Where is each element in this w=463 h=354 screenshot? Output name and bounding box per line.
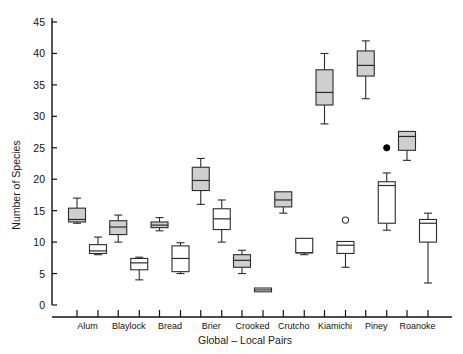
box-local-crutcho xyxy=(296,238,313,254)
box-global-alum xyxy=(69,198,86,223)
box-local-roanoke xyxy=(420,213,437,283)
y-axis: 051015202530354045 xyxy=(33,16,57,311)
box-global-blaylock xyxy=(110,215,127,242)
y-tick-label: 20 xyxy=(33,173,45,185)
outlier-point xyxy=(384,145,390,151)
box-rect xyxy=(234,255,251,268)
box-global-crutcho xyxy=(275,192,292,213)
box-global-crooked xyxy=(234,250,251,273)
box-rect xyxy=(90,245,107,254)
box-global-roanoke xyxy=(399,131,416,160)
box-local-crooked xyxy=(255,288,272,292)
x-tick-label-blaylock: Blaylock xyxy=(112,321,146,331)
box-rect xyxy=(131,258,148,269)
x-tick-label-crutcho: Crutcho xyxy=(278,321,310,331)
box-rect xyxy=(275,192,292,207)
box-rect xyxy=(296,238,313,252)
box-rect xyxy=(110,221,127,235)
x-axis-label: Global – Local Pairs xyxy=(198,334,292,346)
y-tick-label: 25 xyxy=(33,142,45,154)
box-global-piney xyxy=(357,41,374,99)
box-rect xyxy=(316,70,333,105)
box-local-piney xyxy=(378,145,395,230)
y-tick-label: 35 xyxy=(33,79,45,91)
box-rect xyxy=(378,182,395,224)
box-local-kiamichi xyxy=(337,217,354,267)
y-axis-label: Number of Species xyxy=(10,140,22,229)
box-global-kiamichi xyxy=(316,53,333,123)
y-tick-label: 15 xyxy=(33,205,45,217)
x-tick-label-alum: Alum xyxy=(77,321,98,331)
x-tick-label-crooked: Crooked xyxy=(235,321,269,331)
box-series-group xyxy=(69,41,437,292)
box-rect xyxy=(357,51,374,76)
y-tick-label: 10 xyxy=(33,236,45,248)
box-local-bread xyxy=(172,243,189,274)
x-tick-label-piney: Piney xyxy=(365,321,388,331)
x-tick-label-brier: Brier xyxy=(202,321,221,331)
box-plot-chart: Number of Species Global – Local Pairs 0… xyxy=(0,0,463,354)
box-local-alum xyxy=(90,237,107,255)
x-tick-label-kiamichi: Kiamichi xyxy=(318,321,352,331)
outlier-point xyxy=(342,217,348,223)
y-tick-label: 0 xyxy=(39,299,45,311)
y-tick-label: 30 xyxy=(33,110,45,122)
box-rect xyxy=(192,167,209,190)
box-local-blaylock xyxy=(131,257,148,280)
box-global-brier xyxy=(192,158,209,204)
y-tick-label: 40 xyxy=(33,47,45,59)
box-global-bread xyxy=(151,218,168,231)
y-tick-label: 45 xyxy=(33,16,45,28)
x-tick-label-bread: Bread xyxy=(158,321,182,331)
chart-canvas: Number of Species Global – Local Pairs 0… xyxy=(0,0,463,354)
y-tick-label: 5 xyxy=(39,268,45,280)
x-tick-label-roanoke: Roanoke xyxy=(399,321,435,331)
box-local-brier xyxy=(213,200,230,242)
box-rect xyxy=(399,131,416,150)
x-axis: AlumBlaylockBreadBrierCrookedCrutchoKiam… xyxy=(52,310,452,331)
box-rect xyxy=(337,241,354,253)
